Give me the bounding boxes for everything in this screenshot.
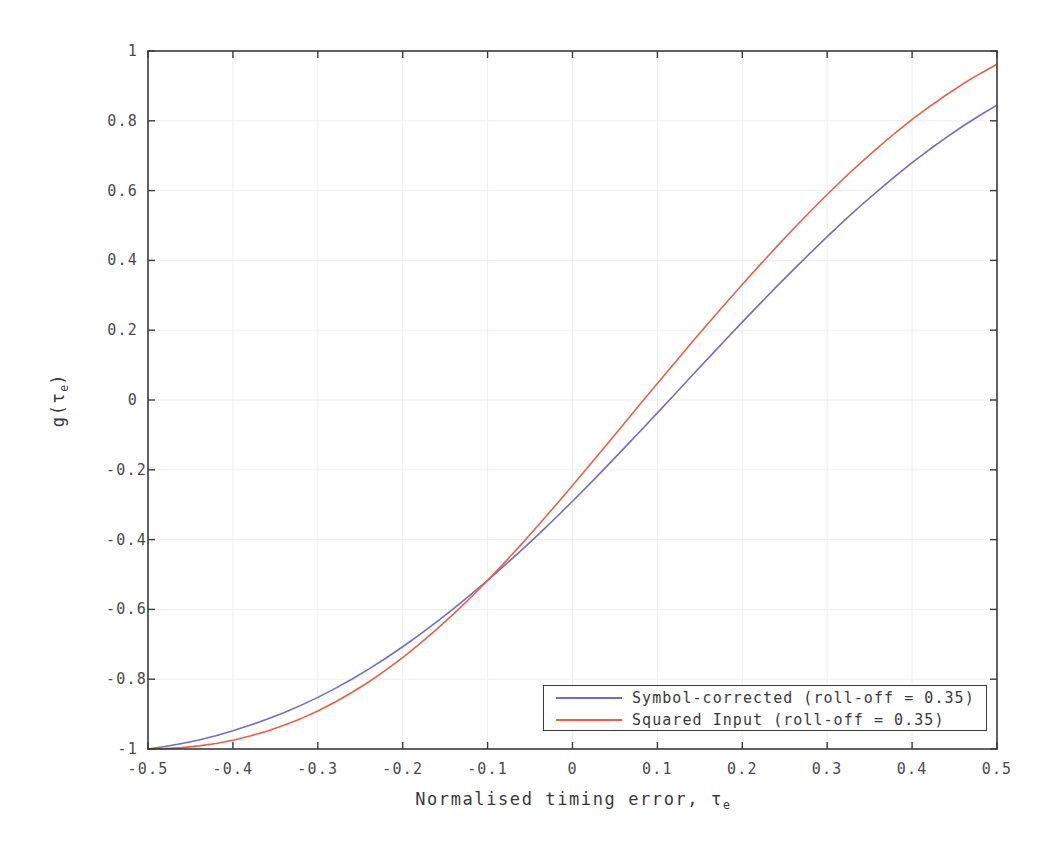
legend-line-swatch bbox=[556, 697, 622, 699]
x-tick-label: 0.3 bbox=[812, 760, 843, 778]
x-tick-label: -0.1 bbox=[467, 760, 508, 778]
tau-subscript: e bbox=[57, 385, 71, 392]
y-tick-label: -0.2 bbox=[106, 461, 138, 479]
tau-symbol: τ bbox=[48, 392, 68, 404]
y-tick-label: 0.2 bbox=[106, 321, 138, 339]
x-tick-label: -0.4 bbox=[212, 760, 253, 778]
y-tick-label: 1 bbox=[106, 42, 138, 60]
tau-subscript: e bbox=[723, 798, 730, 812]
tau-symbol: τ bbox=[711, 789, 723, 809]
legend-item-label: Squared Input (roll-off = 0.35) bbox=[632, 711, 945, 729]
legend-item: Symbol-corrected (roll-off = 0.35) bbox=[544, 687, 975, 709]
y-tick-label: -1 bbox=[106, 740, 138, 758]
x-tick-label: 0.5 bbox=[982, 760, 1013, 778]
y-tick-label: 0.6 bbox=[106, 182, 138, 200]
y-tick-label: -0.8 bbox=[106, 670, 138, 688]
x-tick-label: -0.2 bbox=[382, 760, 423, 778]
x-tick-label: 0.4 bbox=[897, 760, 928, 778]
y-tick-label: 0 bbox=[106, 391, 138, 409]
figure-canvas: -0.5-0.4-0.3-0.2-0.100.10.20.30.40.5 -1-… bbox=[0, 0, 1061, 848]
y-tick-label: -0.4 bbox=[106, 531, 138, 549]
legend-item: Squared Input (roll-off = 0.35) bbox=[544, 709, 945, 731]
x-tick-label: 0 bbox=[567, 760, 577, 778]
x-tick-label: -0.5 bbox=[128, 760, 169, 778]
x-tick-label: 0.2 bbox=[727, 760, 758, 778]
x-tick-label: 0.1 bbox=[642, 760, 673, 778]
legend: Symbol-corrected (roll-off = 0.35) Squar… bbox=[543, 685, 987, 731]
y-tick-label: -0.6 bbox=[106, 600, 138, 618]
x-tick-label: -0.3 bbox=[297, 760, 338, 778]
legend-item-label: Symbol-corrected (roll-off = 0.35) bbox=[632, 689, 975, 707]
x-axis-title: Normalised timing error, τe bbox=[415, 789, 730, 812]
y-axis-title: g(τe) bbox=[48, 373, 71, 427]
y-tick-label: 0.8 bbox=[106, 112, 138, 130]
y-tick-label: 0.4 bbox=[106, 251, 138, 269]
legend-line-swatch bbox=[556, 719, 622, 721]
